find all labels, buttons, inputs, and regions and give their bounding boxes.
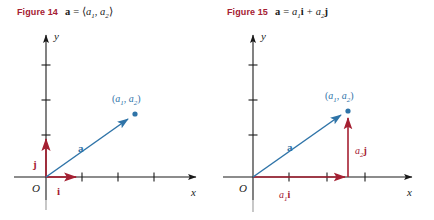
figure-15-caption-math: a=a1i+a2j (275, 6, 328, 17)
y-axis-label: y (260, 30, 266, 42)
caption15-term1-unit: i (301, 6, 304, 17)
unit-vector-j-label: j (32, 158, 37, 170)
terminal-point-label: (a1, a2) (112, 93, 141, 107)
caption-vector-symbol: a (65, 6, 70, 17)
unit-vector-i-group: i (46, 177, 76, 197)
vector-a-label: a (287, 141, 293, 153)
figure-14-label: Figure 14 (17, 7, 58, 17)
caption15-vector-symbol: a (275, 6, 280, 17)
figure-14-block: Figure 14a=⟨a1, a2⟩ (0, 0, 217, 220)
caption15-equals: = (283, 6, 289, 17)
figure-15-label: Figure 15 (227, 7, 268, 17)
x-axis-group: x (14, 173, 196, 199)
y-axis-group: y (42, 30, 60, 210)
figure-14-svg: y x O i (0, 22, 217, 220)
figure-15-block: Figure 15a=a1i+a2j (217, 0, 434, 220)
x-axis-label: x (406, 186, 412, 198)
unit-vector-j-group: j (32, 139, 46, 177)
figure-15-caption: Figure 15a=a1i+a2j (227, 7, 328, 20)
figure-15-diagram: y x O a1i (217, 22, 434, 220)
horizontal-component-label: a1i (279, 189, 291, 203)
vert-unit-vector: j (363, 145, 367, 156)
point-paren-close: ) (350, 90, 353, 102)
vector-a-arrow (253, 115, 341, 177)
vector-a-arrow (46, 119, 128, 177)
unit-vector-i-label: i (57, 185, 60, 197)
vector-a-label: a (78, 142, 84, 154)
y-axis-label: y (53, 30, 59, 42)
vector-a-group: a (253, 115, 341, 177)
x-axis-label: x (190, 186, 196, 198)
origin-label: O (239, 182, 247, 194)
vertical-component-label: a2j (355, 145, 367, 159)
figure-15-svg: y x O a1i (217, 22, 434, 220)
caption-equals: = (73, 6, 79, 17)
terminal-point-dot (345, 108, 350, 113)
point-paren-close: ) (137, 93, 140, 105)
vertical-component-group: a2j (348, 118, 367, 177)
y-axis-group: y (249, 30, 267, 212)
caption15-term2-unit: j (324, 6, 328, 17)
figure-14-diagram: y x O i (0, 22, 217, 220)
figure-pair-container: Figure 14a=⟨a1, a2⟩ (0, 0, 434, 220)
horiz-unit-vector: i (288, 189, 291, 200)
terminal-point-dot (132, 111, 137, 116)
horizontal-component-group: a1i (253, 177, 345, 203)
figure-14-caption: Figure 14a=⟨a1, a2⟩ (17, 7, 113, 20)
caption15-plus: + (307, 6, 313, 17)
terminal-point-label: (a1, a2) (325, 90, 354, 104)
origin-label: O (32, 182, 40, 194)
caption-comma: , (95, 6, 98, 17)
caption-angle-close: ⟩ (109, 6, 113, 17)
figure-14-caption-math: a=⟨a1, a2⟩ (65, 6, 113, 17)
vector-a-group: a (46, 119, 128, 177)
